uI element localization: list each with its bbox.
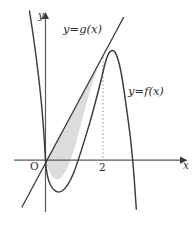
x-tick-label-2: 2 — [99, 162, 106, 173]
curve-f-label: y=f(x) — [128, 86, 164, 98]
y-axis-label: y — [38, 10, 44, 21]
origin-label: O — [30, 161, 39, 172]
curve-g-label: y=g(x) — [63, 24, 102, 36]
curve-g-line — [22, 18, 124, 208]
graph-figure: y=g(x) y=f(x) y x O 2 — [0, 0, 195, 228]
x-axis-label: x — [183, 160, 189, 171]
shaded-region-between-curves — [46, 58, 104, 180]
